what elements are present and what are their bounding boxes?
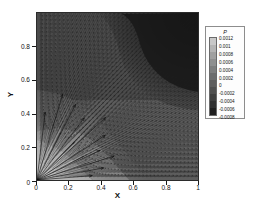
- x-axis-label: X: [36, 191, 199, 200]
- y-tick: [32, 147, 36, 148]
- legend-label: -0.0004: [219, 100, 235, 105]
- y-tick: [32, 181, 36, 182]
- y-tick-label: 0.2: [10, 144, 30, 151]
- legend-label: 0.0012: [219, 37, 233, 42]
- legend-swatch: [210, 52, 216, 59]
- legend-label: 0.0004: [219, 69, 233, 74]
- velocity-vector-field: [36, 12, 199, 181]
- contour-plot-area: [36, 12, 199, 181]
- legend-colorbar: [209, 37, 217, 116]
- legend-label: 0.0008: [219, 53, 233, 58]
- legend-label: 0.0006: [219, 61, 233, 66]
- y-tick-label: 0.4: [10, 110, 30, 117]
- x-tick-label: 1: [187, 184, 209, 191]
- y-tick-label: 0: [10, 179, 30, 186]
- legend-swatch: [210, 59, 216, 66]
- legend-label-list: 0.00120.0010.00080.00060.00040.00020-0.0…: [219, 34, 245, 120]
- legend-label: -0.0006: [219, 108, 235, 113]
- legend-label: 0: [219, 84, 222, 89]
- contour-legend: P 0.00120.0010.00080.00060.00040.00020-0…: [205, 26, 245, 119]
- legend-label: -0.0002: [219, 92, 235, 97]
- legend-swatch: [210, 66, 216, 73]
- x-tick-label: 0.4: [90, 184, 112, 191]
- y-axis-label: Y: [6, 80, 15, 110]
- legend-swatch: [210, 101, 216, 108]
- legend-swatch: [210, 108, 216, 115]
- x-tick-label: 0.6: [122, 184, 144, 191]
- legend-swatch: [210, 94, 216, 101]
- legend-swatch: [210, 45, 216, 52]
- figure-canvas: 0 0.2 0.4 0.6 0.8 1 X 0 0.2 0.4 0.6 0.8 …: [0, 0, 256, 205]
- legend-swatch: [210, 80, 216, 87]
- legend-swatch: [210, 87, 216, 94]
- legend-swatch: [210, 73, 216, 80]
- legend-label: -0.0008: [219, 116, 235, 121]
- y-tick: [32, 46, 36, 47]
- legend-label: 0.0002: [219, 77, 233, 82]
- y-tick: [32, 114, 36, 115]
- y-tick-label: 0.8: [10, 43, 30, 50]
- legend-swatch: [210, 38, 216, 45]
- legend-label: 0.001: [219, 45, 231, 50]
- y-tick: [32, 80, 36, 81]
- x-tick-label: 0.2: [57, 184, 79, 191]
- x-tick-label: 0.8: [155, 184, 177, 191]
